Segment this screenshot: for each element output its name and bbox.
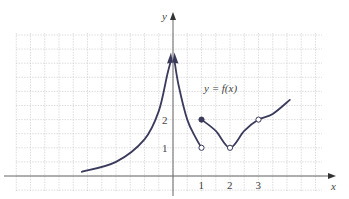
y-axis-arrow-icon (170, 12, 176, 20)
x-tick-label: 2 (227, 179, 233, 191)
y-tick-label: 1 (162, 142, 168, 154)
right-branch (202, 100, 290, 148)
x-axis-label: x (330, 180, 336, 192)
x-tick-label: 1 (199, 179, 205, 191)
open-point (227, 145, 232, 150)
open-point (256, 117, 261, 122)
left-branch-arrow-icon (167, 52, 173, 63)
middle-branch (174, 60, 201, 147)
open-point (199, 145, 204, 150)
function-graph: xy12312y = f(x) (0, 0, 349, 199)
function-label: y = f(x) (203, 82, 237, 95)
y-axis-label: y (161, 10, 167, 22)
y-tick-label: 2 (162, 114, 168, 126)
x-tick-label: 3 (256, 179, 262, 191)
closed-point (199, 117, 204, 122)
x-axis-arrow-icon (328, 173, 336, 179)
